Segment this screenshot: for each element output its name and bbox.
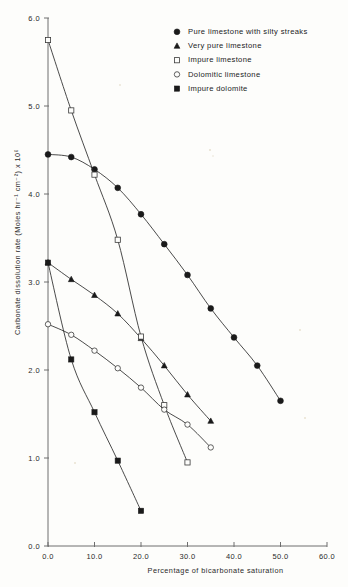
data-point xyxy=(92,292,98,297)
legend-layer: Pure limestone with silty streaksVery pu… xyxy=(174,27,307,93)
y-tick-label: 2.0 xyxy=(28,366,40,375)
x-tick-label: 10.0 xyxy=(86,552,102,561)
series-line xyxy=(48,263,141,511)
data-point xyxy=(162,407,167,412)
data-point xyxy=(278,398,284,404)
data-point xyxy=(92,348,97,353)
legend-label: Dolomitic limestone xyxy=(188,70,260,79)
series-line xyxy=(48,324,211,447)
legend-item-3: Dolomitic limestone xyxy=(174,70,260,79)
data-point xyxy=(92,410,97,415)
x-tick-label: 0.0 xyxy=(42,552,54,561)
data-point xyxy=(68,154,74,160)
data-point xyxy=(69,108,74,113)
data-point xyxy=(69,357,74,362)
data-point xyxy=(208,445,213,450)
x-tick-label: 60.0 xyxy=(319,552,335,561)
data-point xyxy=(185,460,190,465)
legend-marker-open-circle xyxy=(174,72,179,77)
series-4 xyxy=(45,260,143,513)
data-point xyxy=(138,385,143,390)
data-point xyxy=(92,172,97,177)
data-point xyxy=(68,276,74,281)
y-tick-label: 5.0 xyxy=(28,102,40,111)
chart-figure: 0.01.02.03.04.05.06.00.010.020.030.040.0… xyxy=(0,0,348,587)
data-point xyxy=(115,458,120,463)
y-tick-label: 4.0 xyxy=(28,190,40,199)
series-1 xyxy=(45,260,214,424)
legend-item-2: Impure limestone xyxy=(174,55,251,64)
data-point xyxy=(208,306,214,312)
data-point xyxy=(138,211,144,217)
series-layer xyxy=(45,37,283,513)
data-point xyxy=(185,422,190,427)
legend-marker-filled-square xyxy=(174,86,179,91)
y-axis-title: Carbonate dissolution rate (Moles hr⁻¹ c… xyxy=(13,149,22,335)
series-2 xyxy=(45,37,190,465)
legend-label: Pure limestone with silty streaks xyxy=(188,27,308,36)
legend-label: Very pure limestone xyxy=(188,41,262,50)
y-tick-label: 3.0 xyxy=(28,278,40,287)
legend-item-0: Pure limestone with silty streaks xyxy=(174,27,307,36)
legend-marker-filled-circle xyxy=(174,29,180,35)
axis-labels-layer: 0.01.02.03.04.05.06.00.010.020.030.040.0… xyxy=(13,14,335,575)
data-point xyxy=(138,508,143,513)
data-point xyxy=(45,260,50,265)
data-point xyxy=(115,185,121,191)
data-point xyxy=(254,363,260,369)
legend-marker-open-square xyxy=(174,58,179,63)
data-point xyxy=(69,332,74,337)
data-point xyxy=(45,152,51,158)
x-tick-label: 50.0 xyxy=(272,552,288,561)
axes-layer xyxy=(44,18,327,547)
legend-label: Impure limestone xyxy=(188,55,252,64)
data-point xyxy=(185,272,191,278)
x-axis-title: Percentage of bicarbonate saturation xyxy=(148,566,284,575)
chart-canvas: 0.01.02.03.04.05.06.00.010.020.030.040.0… xyxy=(0,0,348,587)
y-tick-label: 1.0 xyxy=(28,454,40,463)
data-point xyxy=(115,366,120,371)
y-tick-label: 6.0 xyxy=(28,14,40,23)
x-tick-label: 40.0 xyxy=(226,552,242,561)
data-point xyxy=(45,322,50,327)
data-point xyxy=(161,241,167,247)
legend-label: Impure dolomite xyxy=(188,84,248,93)
legend-marker-filled-triangle xyxy=(174,43,180,48)
series-line xyxy=(48,40,188,462)
legend-item-1: Very pure limestone xyxy=(174,41,262,50)
x-tick-label: 20.0 xyxy=(133,552,149,561)
data-point xyxy=(231,335,237,341)
series-3 xyxy=(45,322,213,451)
data-point xyxy=(45,37,50,42)
x-tick-label: 30.0 xyxy=(179,552,195,561)
data-point xyxy=(115,237,120,242)
data-point xyxy=(138,334,143,339)
y-tick-label: 0.0 xyxy=(28,542,40,551)
legend-item-4: Impure dolomite xyxy=(174,84,247,93)
